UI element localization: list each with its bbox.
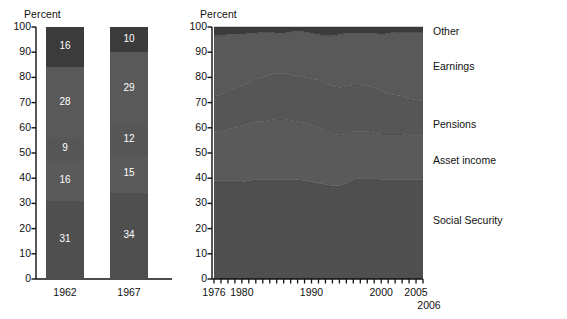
chart-figure: Percent 1009080706050403020100 162891631… bbox=[0, 0, 567, 319]
bar-1962[interactable]: 162891631 bbox=[46, 27, 84, 279]
bar-segment-value: 34 bbox=[110, 229, 148, 240]
area-band bbox=[214, 178, 423, 279]
legend-label-other: Other bbox=[433, 25, 459, 37]
bar-segment[interactable]: 29 bbox=[110, 52, 148, 125]
area-x-tick-2005: 2005 bbox=[396, 286, 436, 298]
legend-label-earnings: Earnings bbox=[433, 60, 474, 72]
bar-category-label-1962: 1962 bbox=[46, 286, 84, 298]
bar-segment[interactable]: 15 bbox=[110, 156, 148, 194]
bar-segment-value: 10 bbox=[110, 33, 148, 44]
bar-segment[interactable]: 28 bbox=[46, 67, 84, 138]
bar-category-label-1967: 1967 bbox=[110, 286, 148, 298]
bar-segment-value: 15 bbox=[110, 167, 148, 178]
area-plot bbox=[176, 0, 567, 319]
bar-segment-value: 12 bbox=[110, 133, 148, 144]
legend-label-pensions: Pensions bbox=[433, 118, 476, 130]
legend-label-asset-income: Asset income bbox=[433, 154, 496, 166]
stacked-bar-panel: Percent 1009080706050403020100 162891631… bbox=[0, 0, 176, 319]
bar-segment-value: 16 bbox=[46, 40, 84, 51]
bar-1967[interactable]: 1029121534 bbox=[110, 27, 148, 279]
bars-axis-lines bbox=[0, 0, 176, 319]
bar-segment[interactable]: 31 bbox=[46, 201, 84, 279]
area-x-tick-1980: 1980 bbox=[222, 286, 262, 298]
bar-segment[interactable]: 9 bbox=[46, 138, 84, 161]
area-x-tick-2006: 2006 bbox=[409, 299, 449, 311]
bar-segment-value: 31 bbox=[46, 233, 84, 244]
bar-segment[interactable]: 34 bbox=[110, 193, 148, 279]
stacked-area-panel: Percent 1009080706050403020100 197619801… bbox=[176, 0, 567, 319]
bar-segment-value: 16 bbox=[46, 174, 84, 185]
legend-label-social-security: Social Security bbox=[433, 214, 502, 226]
bar-segment-value: 29 bbox=[110, 82, 148, 93]
bar-segment[interactable]: 10 bbox=[110, 27, 148, 52]
bar-segment[interactable]: 12 bbox=[110, 125, 148, 155]
bar-segment-value: 9 bbox=[46, 142, 84, 153]
area-x-tick-1990: 1990 bbox=[292, 286, 332, 298]
bar-segment[interactable]: 16 bbox=[46, 161, 84, 201]
bar-segment-value: 28 bbox=[46, 96, 84, 107]
bar-segment[interactable]: 16 bbox=[46, 27, 84, 67]
